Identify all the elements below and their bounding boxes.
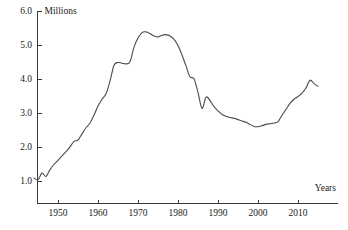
x-tick-label: 2000	[249, 208, 268, 218]
y-tick-label: 3.0	[20, 108, 32, 118]
y-axis-ticks: 1.02.03.04.05.06.0	[20, 6, 41, 186]
x-axis-ticks: 1950196019701980199020002010	[49, 200, 308, 218]
line-chart: 1.02.03.04.05.06.0 195019601970198019902…	[0, 0, 348, 230]
axes	[38, 11, 339, 204]
x-axis-title: Years	[315, 183, 337, 193]
data-line-value	[34, 32, 318, 180]
y-tick-label: 1.0	[20, 176, 32, 186]
x-tick-label: 1970	[129, 208, 148, 218]
x-tick-label: 1950	[49, 208, 68, 218]
x-tick-label: 1960	[89, 208, 108, 218]
chart-canvas: 1.02.03.04.05.06.0 195019601970198019902…	[0, 0, 348, 230]
x-tick-label: 1990	[209, 208, 228, 218]
y-axis-title: Millions	[45, 6, 78, 16]
y-tick-label: 5.0	[20, 40, 32, 50]
y-tick-label: 6.0	[20, 6, 32, 16]
x-tick-label: 1980	[169, 208, 188, 218]
y-tick-label: 4.0	[20, 74, 32, 84]
y-tick-label: 2.0	[20, 142, 32, 152]
x-tick-label: 2010	[289, 208, 308, 218]
data-series-group	[34, 32, 318, 180]
